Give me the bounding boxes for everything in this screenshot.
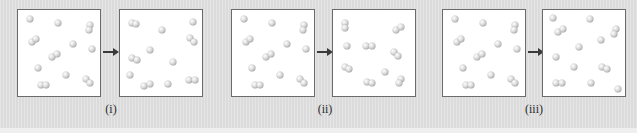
atom bbox=[300, 27, 307, 34]
atom bbox=[495, 41, 502, 48]
atom bbox=[342, 25, 349, 32]
atom bbox=[27, 16, 34, 23]
atom bbox=[576, 44, 583, 51]
atom bbox=[611, 31, 618, 38]
atom bbox=[43, 82, 50, 89]
atom bbox=[35, 65, 42, 72]
atom bbox=[284, 41, 291, 48]
atom bbox=[587, 16, 594, 23]
atom bbox=[553, 54, 560, 61]
atom bbox=[512, 80, 519, 87]
atom bbox=[147, 81, 154, 88]
atom bbox=[257, 82, 264, 89]
atom bbox=[63, 72, 70, 79]
atom bbox=[170, 59, 177, 66]
atom bbox=[479, 51, 486, 58]
atom bbox=[70, 41, 77, 48]
atom bbox=[598, 37, 605, 44]
atom bbox=[452, 16, 459, 23]
atom bbox=[550, 15, 557, 22]
right-arrow-icon bbox=[317, 51, 328, 53]
atom bbox=[33, 36, 40, 43]
atom bbox=[191, 39, 198, 46]
atom bbox=[86, 27, 93, 34]
atom bbox=[369, 80, 376, 87]
atom bbox=[133, 21, 140, 28]
atom bbox=[571, 64, 578, 71]
atom bbox=[89, 46, 96, 53]
atom bbox=[346, 66, 353, 73]
atom bbox=[190, 19, 197, 26]
atom bbox=[604, 66, 611, 73]
atom bbox=[458, 36, 465, 43]
atom bbox=[488, 72, 495, 79]
atom bbox=[134, 57, 141, 64]
atom bbox=[147, 47, 154, 54]
atom bbox=[127, 72, 134, 79]
atom bbox=[398, 24, 405, 31]
atom bbox=[382, 69, 389, 76]
atom bbox=[395, 53, 402, 60]
atom bbox=[344, 43, 351, 50]
atom bbox=[247, 36, 254, 43]
atom bbox=[241, 16, 248, 23]
before-box bbox=[231, 9, 315, 97]
atom bbox=[369, 43, 376, 50]
after-box bbox=[542, 9, 626, 97]
atom bbox=[268, 51, 275, 58]
atom bbox=[277, 72, 284, 79]
panel-label: (ii) bbox=[305, 102, 345, 117]
atom bbox=[514, 46, 521, 53]
after-box bbox=[332, 9, 416, 97]
atom bbox=[87, 80, 94, 87]
atom bbox=[588, 80, 595, 87]
atom bbox=[480, 20, 487, 27]
before-box bbox=[17, 9, 101, 97]
right-arrow-icon bbox=[528, 51, 539, 53]
atom bbox=[615, 86, 622, 93]
atom bbox=[55, 20, 62, 27]
atom bbox=[468, 82, 475, 89]
atom bbox=[303, 46, 310, 53]
atom bbox=[269, 20, 276, 27]
atom bbox=[511, 27, 518, 34]
before-box bbox=[442, 9, 526, 97]
atom bbox=[54, 51, 61, 58]
atom bbox=[460, 65, 467, 72]
atom bbox=[192, 77, 199, 84]
atom bbox=[301, 80, 308, 87]
atom bbox=[165, 81, 172, 88]
atom bbox=[559, 80, 566, 87]
right-arrow-icon bbox=[103, 51, 114, 53]
atom bbox=[560, 26, 567, 33]
atom bbox=[249, 65, 256, 72]
panel-label: (i) bbox=[91, 102, 131, 117]
after-box bbox=[119, 9, 203, 97]
atom bbox=[396, 80, 403, 87]
panel-label: (iii) bbox=[514, 102, 554, 117]
atom bbox=[159, 27, 166, 34]
